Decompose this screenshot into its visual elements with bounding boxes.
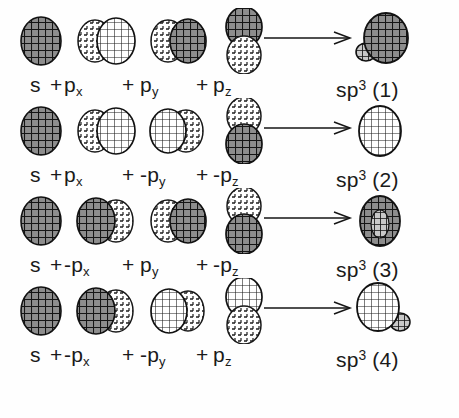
hybridization-row: s + px + py + pz sp3 (1)	[0, 8, 459, 104]
negative-px-orbital-icon	[72, 188, 158, 254]
plus-sign: +	[122, 70, 134, 100]
transformation-arrow	[262, 210, 358, 226]
term-s: s	[30, 250, 41, 280]
result-label: sp3 (4)	[336, 340, 399, 375]
px-orbital-icon	[72, 98, 158, 164]
hybridization-row: s + px + -py + -pz sp3 (2)	[0, 98, 459, 194]
orbital-equation: s + -px + -py + pz sp3 (4)	[0, 340, 459, 374]
plus-sign: +	[122, 340, 134, 370]
sp3-hybrid-orbital-icon	[350, 188, 436, 254]
term-px: -px	[64, 340, 90, 377]
plus-sign: +	[196, 250, 208, 280]
transformation-arrow	[262, 300, 358, 316]
orbital-band	[0, 98, 459, 164]
plus-sign: +	[122, 250, 134, 280]
sp3-hybrid-orbital-icon	[350, 278, 436, 344]
term-s: s	[30, 160, 41, 190]
plus-sign: +	[196, 160, 208, 190]
plus-sign: +	[50, 250, 62, 280]
plus-sign: +	[122, 160, 134, 190]
sp3-hybridization-figure: s + px + py + pz sp3 (1)	[0, 0, 459, 418]
plus-sign: +	[196, 70, 208, 100]
plus-sign: +	[50, 160, 62, 190]
plus-sign: +	[50, 70, 62, 100]
orbital-band	[0, 278, 459, 344]
term-s: s	[30, 70, 41, 100]
term-s: s	[30, 340, 41, 370]
sp3-hybrid-orbital-icon	[350, 98, 436, 164]
transformation-arrow	[262, 30, 358, 46]
hybridization-row: s + -px + py + -pz sp3 (3)	[0, 188, 459, 284]
hybridization-row: s + -px + -py + pz sp3 (4)	[0, 278, 459, 374]
sp3-hybrid-orbital-icon	[350, 8, 436, 74]
orbital-band	[0, 8, 459, 74]
negative-px-orbital-icon	[72, 278, 158, 344]
term-py: -py	[140, 340, 166, 377]
plus-sign: +	[196, 340, 208, 370]
orbital-band	[0, 188, 459, 254]
transformation-arrow	[262, 120, 358, 136]
term-pz: pz	[213, 340, 231, 377]
px-orbital-icon	[72, 8, 158, 74]
plus-sign: +	[50, 340, 62, 370]
